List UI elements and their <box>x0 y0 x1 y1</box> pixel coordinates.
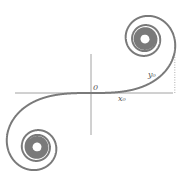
x0-label: x₀ <box>118 94 127 103</box>
origin-label: 0 <box>93 83 98 92</box>
euler-spiral-figure: 0 y₀ x₀ <box>0 0 182 176</box>
y0-label: y₀ <box>147 70 157 79</box>
